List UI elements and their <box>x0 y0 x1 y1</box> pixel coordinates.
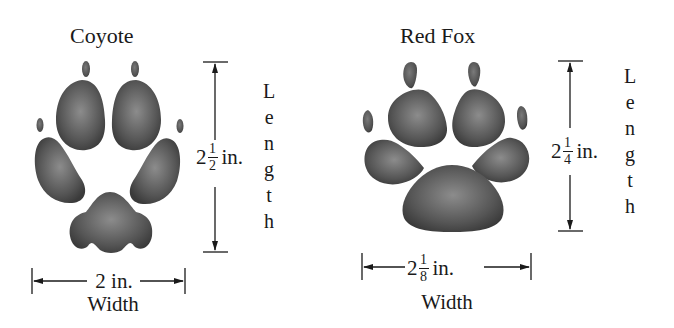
coyote-length-fraction: 1 2 <box>208 142 218 173</box>
fox-length-fraction: 1 4 <box>563 136 573 167</box>
letter: n <box>625 115 635 141</box>
fox-length-numerator: 1 <box>564 136 571 150</box>
fox-length-label: 2 1 4 in. <box>551 136 598 167</box>
coyote-paw-print <box>35 61 184 253</box>
coyote-length-label: 2 1 2 in. <box>196 142 243 173</box>
fox-width-whole: 2 <box>407 258 418 279</box>
coyote-claw-top-right <box>131 61 139 77</box>
letter: e <box>265 104 274 130</box>
fox-claw-side-right <box>517 106 527 130</box>
coyote-length-numerator: 1 <box>209 142 216 156</box>
fox-width-denominator: 8 <box>420 270 427 284</box>
coyote-claw-side-left <box>37 118 44 132</box>
fox-toe-pad-right <box>452 89 505 147</box>
coyote-claw-top-left <box>82 61 90 77</box>
fox-length-whole: 2 <box>551 141 562 162</box>
coyote-length-unit: in. <box>222 147 244 168</box>
fox-length-denominator: 4 <box>564 153 571 167</box>
letter: g <box>625 141 635 167</box>
coyote-length-denominator: 2 <box>209 159 216 173</box>
fox-claw-top-right <box>468 62 480 87</box>
letter: t <box>627 167 633 193</box>
coyote-width-value: 2 in. <box>88 271 140 292</box>
fox-width-unit: in. <box>433 258 455 279</box>
fox-claw-top-left <box>403 62 417 88</box>
letter: L <box>263 78 275 104</box>
fox-width-label: 2 1 8 in. <box>407 253 454 284</box>
letter: h <box>625 193 635 219</box>
letter: g <box>264 156 274 182</box>
coyote-claw-side-right <box>177 119 184 133</box>
red-fox-title: Red Fox <box>400 25 475 47</box>
coyote-toe-pad-right <box>112 80 161 150</box>
fox-width-word: Width <box>402 292 492 313</box>
fox-width-numerator: 1 <box>420 253 427 267</box>
coyote-toe-pad-left <box>56 80 105 150</box>
fox-width-fraction: 1 8 <box>419 253 429 284</box>
letter: t <box>266 182 272 208</box>
fox-length-unit: in. <box>577 141 599 162</box>
coyote-title: Coyote <box>70 25 134 47</box>
letter: h <box>264 208 274 234</box>
letter: n <box>264 130 274 156</box>
coyote-length-whole: 2 <box>196 147 207 168</box>
fox-toe-pad-left <box>388 89 447 147</box>
fox-claw-side-left <box>363 110 373 132</box>
coyote-length-word: L e n g t h <box>263 78 275 234</box>
letter: e <box>626 89 635 115</box>
fox-length-word: L e n g t h <box>624 63 636 219</box>
letter: L <box>624 63 636 89</box>
coyote-width-word: Width <box>68 294 158 315</box>
red-fox-paw-print <box>363 62 529 232</box>
